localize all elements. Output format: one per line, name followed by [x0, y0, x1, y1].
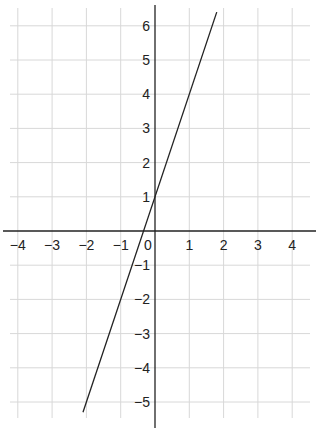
y-tick-label: −3	[134, 326, 150, 342]
x-tick-label: 1	[185, 237, 193, 253]
plot-line	[83, 12, 217, 412]
x-tick-label: −4	[10, 237, 26, 253]
x-tick-label: 4	[288, 237, 296, 253]
y-tick-label: 2	[142, 155, 150, 171]
y-tick-label: 3	[142, 120, 150, 136]
x-tick-label: −1	[113, 237, 129, 253]
y-tick-label: 4	[142, 86, 150, 102]
graph: −4−3−2−101234−5−4−3−2−1123456	[0, 0, 319, 428]
x-tick-label: 0	[144, 237, 152, 253]
y-tick-label: 6	[142, 18, 150, 34]
y-tick-label: 5	[142, 52, 150, 68]
x-tick-label: −2	[78, 237, 94, 253]
x-tick-label: −3	[44, 237, 60, 253]
tick-labels: −4−3−2−101234−5−4−3−2−1123456	[10, 18, 296, 410]
y-tick-label: −1	[134, 257, 150, 273]
grid-lines	[10, 8, 310, 418]
x-tick-label: 2	[220, 237, 228, 253]
y-tick-label: 1	[142, 189, 150, 205]
axes	[3, 5, 316, 428]
line-y-equals-3x-plus-1	[83, 12, 217, 412]
y-tick-label: −5	[134, 394, 150, 410]
x-tick-label: 3	[254, 237, 262, 253]
y-tick-label: −2	[134, 291, 150, 307]
y-tick-label: −4	[134, 360, 150, 376]
